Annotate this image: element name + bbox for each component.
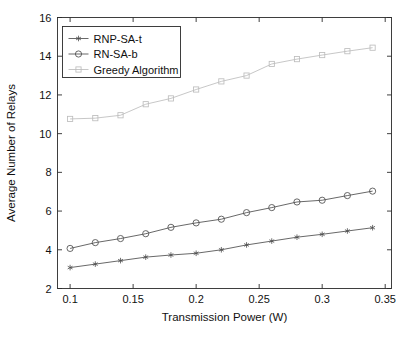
y-tick-label: 12: [39, 89, 51, 101]
x-tick-label: 0.25: [248, 293, 269, 305]
chart-figure: RNP-SA-tRN-SA-bGreedy Algorithm 0.10.150…: [0, 0, 402, 345]
legend-label-2: RN-SA-b: [94, 48, 138, 60]
x-axis-title: Transmission Power (W): [162, 311, 288, 323]
x-tick-label: 0.1: [62, 293, 77, 305]
legend-label-1: RNP-SA-t: [94, 33, 142, 45]
x-tick-label: 0.3: [315, 293, 330, 305]
x-tick-label: 0.15: [122, 293, 143, 305]
x-tick-label: 0.35: [374, 293, 395, 305]
y-tick-label: 6: [45, 205, 51, 217]
chart-canvas: RNP-SA-tRN-SA-bGreedy Algorithm 0.10.150…: [0, 0, 402, 345]
y-axis-title: Average Number of Relays: [5, 84, 17, 222]
y-tick-label: 10: [39, 128, 51, 140]
y-tick-label: 4: [45, 244, 51, 256]
legend-group: RNP-SA-tRN-SA-bGreedy Algorithm: [63, 27, 181, 78]
y-tick-label: 8: [45, 166, 51, 178]
y-tick-label: 14: [39, 50, 51, 62]
y-tick-label: 2: [45, 283, 51, 295]
legend-label-3: Greedy Algorithm: [94, 64, 179, 76]
y-tick-label: 16: [39, 12, 51, 24]
x-tick-label: 0.2: [188, 293, 203, 305]
